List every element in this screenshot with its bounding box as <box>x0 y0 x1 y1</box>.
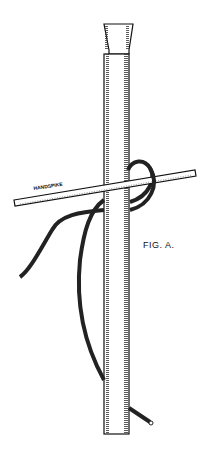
pole <box>104 24 133 434</box>
rope-illustration <box>0 0 208 449</box>
rope-tail <box>129 408 150 422</box>
figure-caption: FIG. A. <box>143 240 175 250</box>
rope-long-strand <box>79 200 104 380</box>
rope-left-strand <box>20 210 104 277</box>
figure-canvas: HANDSPIKE FIG. A. <box>0 0 208 449</box>
